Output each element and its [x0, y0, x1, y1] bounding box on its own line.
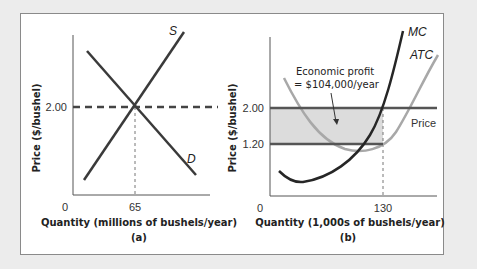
- chart-svg: S D 2.00 0 65 Quantity (millions of bush…: [0, 0, 477, 269]
- b-annotation-line2: = $104,000/year: [294, 79, 380, 90]
- b-x-axis-label: Quantity (1,000s of bushels/year): [255, 217, 445, 228]
- b-y-tick-1-20: 1.20: [243, 138, 264, 150]
- b-x-tick-0: 0: [257, 202, 263, 214]
- b-y-tick-2-00: 2.00: [243, 102, 264, 114]
- b-atc-label: ATC: [409, 48, 433, 62]
- a-x-tick-65: 65: [129, 201, 141, 213]
- b-y-axis-label: Price ($/bushel): [227, 83, 238, 172]
- a-x-axis-label: Quantity (millions of bushels/year): [41, 217, 237, 228]
- panel-a: S D 2.00 0 65 Quantity (millions of bush…: [31, 24, 237, 243]
- b-mc-label: MC: [408, 25, 427, 39]
- a-demand-label: D: [187, 152, 196, 166]
- b-x-tick-130: 130: [374, 202, 392, 214]
- b-annotation-line1: Economic profit: [296, 66, 374, 77]
- a-panel-label: (a): [131, 232, 147, 243]
- a-y-tick-2-00: 2.00: [46, 101, 67, 113]
- a-x-tick-0: 0: [62, 201, 68, 213]
- a-y-axis-label: Price ($/bushel): [31, 83, 42, 172]
- a-supply-label: S: [169, 24, 177, 38]
- panel-b: MC ATC Price Economic profit = $104,000/…: [227, 25, 445, 243]
- b-panel-label: (b): [340, 232, 356, 243]
- a-demand-curve: [87, 51, 196, 175]
- b-mc-curve: [279, 31, 403, 182]
- b-price-label: Price: [411, 117, 436, 129]
